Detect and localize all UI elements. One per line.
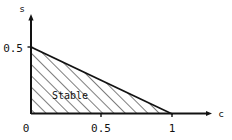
tick-label-y-half: 0.5 [3, 42, 23, 55]
stable-region [31, 47, 172, 114]
tick-label-x-half: 0.5 [91, 122, 111, 135]
tick-label-x-one: 1 [169, 122, 176, 135]
x-axis-title: c [218, 108, 224, 119]
stability-region-figure: s c 0 0.5 1 0.5 Stable [0, 0, 232, 140]
y-axis-title: s [19, 3, 25, 14]
tick-label-origin: 0 [23, 122, 30, 135]
stable-region-label: Stable [52, 90, 88, 101]
plot-canvas: s c 0 0.5 1 0.5 Stable [0, 0, 232, 140]
